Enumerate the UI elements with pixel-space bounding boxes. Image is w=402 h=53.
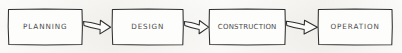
block-arrow-icon: [84, 20, 111, 34]
flow-node-planning[interactable]: PLANNING: [8, 9, 82, 45]
flow-node-design[interactable]: DESIGN: [112, 9, 183, 45]
flow-connector-design-to-construction[interactable]: [184, 21, 208, 34]
node-label-design: DESIGN: [131, 22, 164, 31]
flowchart-diagram: Project Lifecycle Phase Flow PLANNING DE…: [0, 0, 402, 53]
flow-connector-planning-to-design[interactable]: [84, 20, 111, 34]
diagram-canvas: Project Lifecycle Phase Flow PLANNING DE…: [0, 0, 402, 53]
block-arrow-icon: [286, 20, 317, 34]
node-label-planning: PLANNING: [23, 22, 67, 31]
block-arrow-icon: [184, 21, 208, 34]
flow-connector-construction-to-operation[interactable]: [286, 20, 317, 34]
flow-node-construction[interactable]: CONSTRUCTION: [209, 9, 285, 45]
flow-node-operation[interactable]: OPERATION: [318, 9, 392, 45]
node-label-construction: CONSTRUCTION: [218, 23, 277, 31]
node-label-operation: OPERATION: [331, 22, 380, 31]
